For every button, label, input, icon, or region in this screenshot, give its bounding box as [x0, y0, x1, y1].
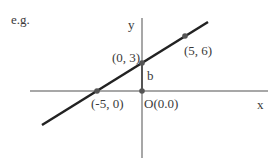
origin-point [139, 88, 145, 94]
point-5-6 [182, 33, 188, 39]
line-graph-diagram [0, 0, 279, 160]
caption: e.g. [11, 13, 30, 26]
point-label-5-6: (5, 6) [184, 44, 212, 57]
intercept-label: b [147, 69, 154, 82]
y-axis-label: y [128, 18, 135, 31]
point-label-0-3: (0, 3) [112, 51, 140, 64]
x-axis-label: x [257, 98, 264, 111]
point-label-neg5-0: (-5, 0) [91, 97, 124, 110]
point-neg5-0 [94, 88, 100, 94]
origin-label: O(0.0) [144, 97, 178, 110]
